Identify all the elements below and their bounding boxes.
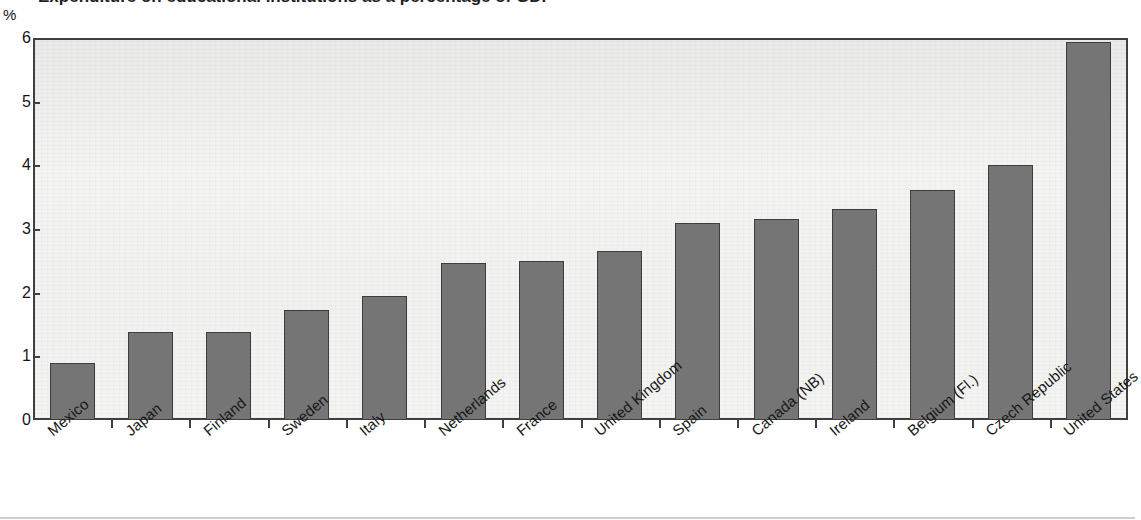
bar (988, 165, 1033, 420)
bar (832, 209, 877, 420)
y-axis-unit-label: % (3, 6, 16, 23)
y-axis-tick-label: 2 (9, 284, 31, 302)
bar (362, 296, 407, 420)
bar-series (33, 38, 1128, 420)
bar (675, 223, 720, 420)
x-axis-labels: MexicoJapanFinlandSwedenItalyNetherlands… (0, 420, 1135, 520)
chart-title-clipped: Expenditure on educational institutions … (0, 0, 1135, 9)
bar (1066, 42, 1111, 420)
y-axis-tick-label: 4 (9, 156, 31, 174)
bar (910, 190, 955, 420)
y-axis-tick-label: 3 (9, 220, 31, 238)
bottom-rule (0, 517, 1135, 519)
y-axis-tick-label: 1 (9, 347, 31, 365)
chart-title-text: Expenditure on educational institutions … (38, 0, 553, 7)
y-axis-tick-label: 5 (9, 93, 31, 111)
y-axis-tick-label: 6 (9, 29, 31, 47)
bar (519, 261, 564, 420)
y-axis: 0123456 (0, 38, 31, 420)
